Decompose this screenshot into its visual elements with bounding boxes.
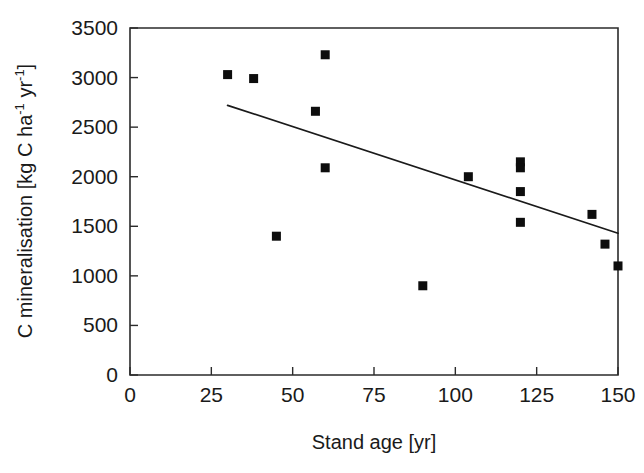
chart-canvas: 0500100015002000250030003500 02550751001…	[0, 0, 644, 473]
y-tick-label-0: 0	[106, 363, 118, 386]
data-point	[464, 172, 473, 181]
data-point	[321, 50, 330, 59]
y-tick-label-1500: 1500	[71, 214, 118, 237]
data-point	[600, 240, 609, 249]
y-tick-label-500: 500	[83, 313, 118, 336]
data-point	[516, 218, 525, 227]
data-point	[516, 187, 525, 196]
y-tick-label-3500: 3500	[71, 16, 118, 39]
x-tick-label-25: 25	[200, 383, 223, 406]
data-point	[587, 210, 596, 219]
x-tick-label-50: 50	[281, 383, 304, 406]
y-tick-label-1000: 1000	[71, 264, 118, 287]
data-point	[614, 261, 623, 270]
data-point	[249, 74, 258, 83]
y-tick-label-2500: 2500	[71, 115, 118, 138]
data-point	[321, 163, 330, 172]
y-tick-label-2000: 2000	[71, 165, 118, 188]
data-point	[223, 70, 232, 79]
data-point	[311, 107, 320, 116]
data-point	[516, 163, 525, 172]
x-tick-label-150: 150	[600, 383, 635, 406]
scatter-chart-figure: 0500100015002000250030003500 02550751001…	[0, 0, 644, 473]
x-tick-label-125: 125	[519, 383, 554, 406]
x-tick-label-0: 0	[124, 383, 136, 406]
x-axis-title: Stand age [yr]	[312, 431, 437, 453]
x-tick-label-100: 100	[438, 383, 473, 406]
x-tick-label-75: 75	[362, 383, 385, 406]
data-point	[418, 281, 427, 290]
y-tick-label-3000: 3000	[71, 66, 118, 89]
data-point	[272, 232, 281, 241]
